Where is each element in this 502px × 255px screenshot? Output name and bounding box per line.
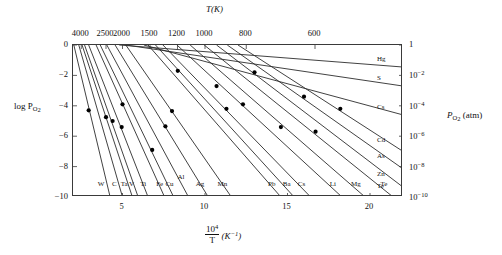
x-axis-title: 104 T (K−1) <box>205 222 241 245</box>
series-label-ba: Ba <box>283 181 291 188</box>
top-axis-title: T(K) <box>206 4 223 14</box>
series-line-hg-21 <box>119 45 402 67</box>
plot-canvas <box>73 45 402 196</box>
series-label-c: C <box>112 181 117 188</box>
series-label-right-cd: Cd <box>377 137 385 144</box>
data-point-cu <box>150 148 154 152</box>
right-axis-tick-1: 10−2 <box>409 68 424 80</box>
data-point-pb <box>214 84 218 88</box>
series-label-right-te: Te <box>377 183 384 190</box>
data-point-cd <box>338 107 342 111</box>
series-label-right-zn: Zn <box>377 171 385 178</box>
left-axis-title-sub-two: 2 <box>37 106 40 113</box>
right-axis-tick-base-3: 10 <box>409 131 418 141</box>
right-axis-title-unit: (atm) <box>463 110 483 120</box>
data-point-ti <box>120 125 124 129</box>
x-axis-title-num-exp: 4 <box>215 223 218 230</box>
right-axis-tick-exp-1: −2 <box>418 69 425 76</box>
right-axis-tick-exp-5: −10 <box>418 191 428 198</box>
series-label-mg: Mg <box>351 181 361 188</box>
series-line-fe-5 <box>96 45 164 196</box>
data-point-te <box>313 130 317 134</box>
right-axis-tick-base-4: 10 <box>409 162 418 172</box>
series-line-w-0 <box>74 45 110 196</box>
series-lines <box>74 45 402 196</box>
data-point-fe <box>120 102 124 106</box>
x-axis-title-numerator: 104 <box>205 222 219 235</box>
x-axis-tick-15: 15 <box>282 202 291 211</box>
series-line-zn-16 <box>217 45 402 187</box>
right-axis-tick-exp-4: −8 <box>418 160 425 167</box>
top-axis-tick-1000: 1000 <box>196 29 213 38</box>
series-line-s-20 <box>126 45 402 86</box>
left-axis-tick-minus2: −2 <box>44 70 68 79</box>
left-axis-title-log: log P <box>14 101 33 111</box>
series-label-right-cs: Cs <box>377 104 384 111</box>
series-label-fe: Fe <box>156 181 163 188</box>
series-label-right-as: As <box>377 153 385 160</box>
top-axis-tick-600: 600 <box>308 29 321 38</box>
left-axis-tick-minus8: −8 <box>44 161 68 170</box>
x-axis-tick-5: 5 <box>119 202 123 211</box>
data-point-ta <box>104 115 108 119</box>
top-axis-tick-1500: 1500 <box>141 29 158 38</box>
series-line-ag-8 <box>115 45 208 196</box>
left-axis-title: log PO2 <box>14 101 41 113</box>
right-axis-tick-3: 10−6 <box>409 129 424 141</box>
series-label-ta: Ta <box>121 181 128 188</box>
x-axis-tick-10: 10 <box>200 202 209 211</box>
data-point-ba <box>176 69 180 73</box>
x-axis-title-fraction: 104 T <box>205 222 219 245</box>
top-axis-tick-4000: 4000 <box>72 29 89 38</box>
series-label-al: Al <box>178 174 185 181</box>
left-axis-tick-minus4: −4 <box>44 100 68 109</box>
series-label-w: W <box>98 181 105 188</box>
series-label-right-hg: Hg <box>377 56 386 63</box>
right-axis-tick-base-1: 10 <box>409 71 418 81</box>
series-label-cs: Cs <box>298 181 305 188</box>
data-point-li <box>241 102 245 106</box>
data-point-v <box>111 119 115 123</box>
right-axis-tick-base-0: 1 <box>409 39 413 49</box>
axis-tick-marks <box>73 45 402 196</box>
right-axis-title: PO2 (atm) <box>447 110 482 122</box>
right-axis-tick-base-2: 10 <box>409 101 418 111</box>
series-label-v: V <box>129 181 134 188</box>
data-point-cs <box>224 107 228 111</box>
series-line-cs-12 <box>163 45 311 196</box>
top-axis-tick-1200: 1200 <box>168 29 185 38</box>
series-label-pb: Pb <box>268 181 275 188</box>
right-axis-tick-base-5: 10 <box>409 192 418 202</box>
x-axis-title-denominator: T <box>205 235 219 245</box>
left-axis-tick-0: 0 <box>44 40 68 49</box>
data-point-mg <box>279 125 283 129</box>
x-axis-title-unit-open: (K <box>222 231 231 241</box>
series-label-li: Li <box>330 181 336 188</box>
left-axis-tick-minus6: −6 <box>44 131 68 140</box>
series-label-cu: Cu <box>165 181 173 188</box>
series-label-mn: Mn <box>217 181 227 188</box>
series-line-c-1 <box>79 45 123 196</box>
data-point-ag <box>163 124 167 128</box>
data-point-zn <box>252 70 256 74</box>
right-axis-tick-0: 1 <box>409 40 413 49</box>
x-axis-title-unit-exp: −1 <box>231 230 239 237</box>
top-axis-tick-2000: 2000 <box>113 29 130 38</box>
left-axis-tick-minus10: −10 <box>44 192 68 201</box>
data-point-mn <box>170 109 174 113</box>
series-label-ti: Ti <box>140 181 146 188</box>
right-axis-tick-5: 10−10 <box>409 190 428 202</box>
series-label-ag: Ag <box>196 181 205 188</box>
right-axis-tick-exp-3: −6 <box>418 130 425 137</box>
x-axis-tick-20: 20 <box>365 202 374 211</box>
top-axis-tick-800: 800 <box>239 29 252 38</box>
right-axis-tick-4: 10−8 <box>409 159 424 171</box>
right-axis-tick-2: 10−4 <box>409 99 424 111</box>
top-axis-title-text: T(K) <box>206 4 223 14</box>
series-line-ti-4 <box>89 45 148 196</box>
series-label-right-s: S <box>377 75 381 82</box>
series-line-ta-2 <box>82 45 132 196</box>
x-axis-title-unit-close: ) <box>238 231 241 241</box>
right-axis-tick-exp-2: −4 <box>418 100 425 107</box>
series-line-te-15 <box>204 45 393 196</box>
